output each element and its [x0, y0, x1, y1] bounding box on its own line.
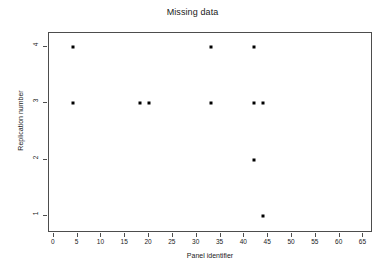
x-axis-tick — [148, 233, 149, 237]
y-axis-tick-label: 1 — [32, 208, 39, 220]
x-axis-tick — [124, 233, 125, 237]
x-axis-tick-label: 65 — [350, 238, 374, 245]
x-axis-tick-label: 50 — [279, 238, 303, 245]
data-point — [262, 215, 265, 218]
x-axis-title: Panel identifier — [48, 252, 372, 259]
data-point — [148, 102, 151, 105]
data-point — [71, 102, 74, 105]
x-axis-tick-label: 35 — [208, 238, 232, 245]
y-axis-tick-label: 4 — [32, 39, 39, 51]
x-axis-tick — [315, 233, 316, 237]
x-axis-tick — [53, 233, 54, 237]
x-axis-tick — [172, 233, 173, 237]
x-axis-tick-label: 55 — [303, 238, 327, 245]
x-axis-tick — [267, 233, 268, 237]
x-axis-tick — [243, 233, 244, 237]
data-point — [252, 46, 255, 49]
y-axis-tick — [43, 46, 47, 47]
x-axis-tick — [100, 233, 101, 237]
x-axis-tick-label: 60 — [327, 238, 351, 245]
x-axis-tick-label: 40 — [231, 238, 255, 245]
page-title: Missing data — [0, 7, 385, 17]
data-point — [210, 46, 213, 49]
x-axis-tick — [339, 233, 340, 237]
x-axis-tick — [77, 233, 78, 237]
x-axis-tick-label: 25 — [160, 238, 184, 245]
plot-data-area — [49, 33, 371, 231]
data-point — [71, 46, 74, 49]
x-axis-tick-label: 10 — [88, 238, 112, 245]
x-axis-tick-label: 45 — [255, 238, 279, 245]
x-axis-tick-label: 20 — [136, 238, 160, 245]
x-axis-tick — [196, 233, 197, 237]
x-axis-tick — [362, 233, 363, 237]
plot-panel — [48, 32, 372, 232]
scatter-plot-figure: Missing data 05101520253035404550556065 … — [0, 0, 385, 273]
x-axis-tick-label: 30 — [184, 238, 208, 245]
data-point — [210, 102, 213, 105]
y-axis-tick — [43, 159, 47, 160]
x-axis-tick-label: 15 — [112, 238, 136, 245]
data-point — [262, 102, 265, 105]
data-point — [252, 158, 255, 161]
x-axis-tick-label: 5 — [65, 238, 89, 245]
x-axis-tick-label: 0 — [41, 238, 65, 245]
data-point — [138, 102, 141, 105]
x-axis-tick — [291, 233, 292, 237]
data-point — [252, 102, 255, 105]
y-axis-tick-label: 2 — [32, 151, 39, 163]
y-axis-tick-label: 3 — [32, 95, 39, 107]
y-axis-title: Replication number — [17, 61, 24, 181]
y-axis-tick — [43, 215, 47, 216]
y-axis-tick — [43, 102, 47, 103]
x-axis-tick — [220, 233, 221, 237]
